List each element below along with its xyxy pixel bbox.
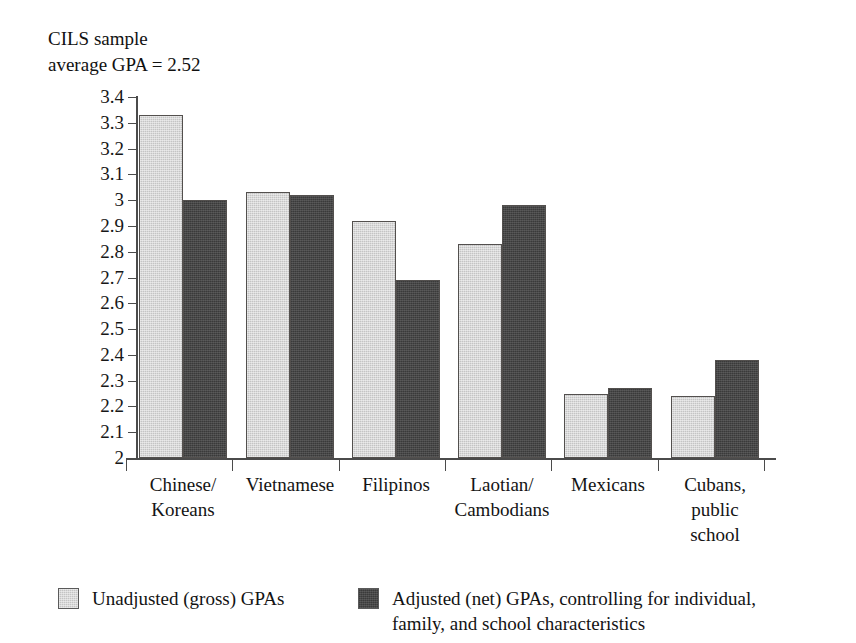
- y-axis-tick-label: 3.3: [70, 113, 124, 132]
- bar-chart: CILS sample average GPA = 2.52 3.43.33.2…: [0, 0, 856, 643]
- bar: [608, 388, 652, 458]
- x-axis-tick: [551, 460, 552, 471]
- bar: [352, 221, 396, 458]
- y-axis-tick-label: 2.7: [70, 268, 124, 287]
- bar: [246, 192, 290, 458]
- x-axis-tick: [445, 460, 446, 471]
- bar: [671, 396, 715, 458]
- y-axis-tick: [128, 123, 136, 124]
- y-axis-tick: [128, 97, 136, 98]
- bar: [715, 360, 759, 458]
- y-axis-tick: [128, 149, 136, 150]
- y-axis-tick-label: 2.4: [70, 345, 124, 364]
- y-axis-tick-label: 2.2: [70, 396, 124, 415]
- y-axis-tick-label: 3.2: [70, 139, 124, 158]
- legend-label-unadjusted: Unadjusted (gross) GPAs: [92, 586, 284, 611]
- bar: [502, 205, 546, 458]
- x-axis-tick: [232, 460, 233, 471]
- x-axis-category-label: Mexicans: [546, 472, 670, 497]
- y-axis-tick-label: 2.1: [70, 422, 124, 441]
- y-axis-tick-label: 2.9: [70, 216, 124, 235]
- x-axis-tick: [126, 460, 127, 471]
- y-axis-tick: [128, 355, 136, 356]
- y-axis-tick: [128, 432, 136, 433]
- legend-swatch-icon-adjusted: [358, 588, 379, 609]
- y-axis-tick-label: 2: [70, 448, 124, 467]
- y-axis-tick-label: 2.5: [70, 319, 124, 338]
- legend-swatch-icon-unadjusted: [58, 588, 79, 609]
- legend-item-unadjusted[interactable]: Unadjusted (gross) GPAs: [58, 586, 358, 611]
- bar: [183, 200, 227, 458]
- y-axis-tick: [128, 406, 136, 407]
- y-axis-tick: [128, 458, 136, 459]
- bar: [396, 280, 440, 458]
- x-axis-tick: [658, 460, 659, 471]
- bar: [139, 115, 183, 458]
- y-axis-tick-label: 3.1: [70, 164, 124, 183]
- x-axis-category-label: Cubans, public school: [653, 472, 777, 547]
- x-axis-tick: [764, 460, 765, 471]
- y-axis-tick: [128, 278, 136, 279]
- x-axis-line: [126, 458, 776, 460]
- bar: [564, 394, 608, 458]
- chart-legend: Unadjusted (gross) GPAs Adjusted (net) G…: [58, 586, 848, 636]
- y-axis-tick: [128, 226, 136, 227]
- y-axis-tick: [128, 303, 136, 304]
- y-axis-line: [136, 96, 138, 460]
- legend-label-adjusted: Adjusted (net) GPAs, controlling for ind…: [392, 586, 756, 636]
- y-axis-tick-label: 2.8: [70, 242, 124, 261]
- y-axis-tick-label: 3.4: [70, 87, 124, 106]
- y-axis-tick-label: 3: [70, 190, 124, 209]
- chart-title: CILS sample average GPA = 2.52: [48, 26, 278, 78]
- x-axis-category-label: Chinese/ Koreans: [121, 472, 245, 522]
- y-axis-tick: [128, 200, 136, 201]
- y-axis-tick-label: 2.6: [70, 293, 124, 312]
- y-axis-tick: [128, 252, 136, 253]
- y-axis-tick-label: 2.3: [70, 371, 124, 390]
- bar: [290, 195, 334, 458]
- y-axis-tick: [128, 381, 136, 382]
- bar: [458, 244, 502, 458]
- y-axis-tick: [128, 329, 136, 330]
- x-axis-tick: [339, 460, 340, 471]
- y-axis-tick: [128, 174, 136, 175]
- legend-item-adjusted[interactable]: Adjusted (net) GPAs, controlling for ind…: [358, 586, 828, 636]
